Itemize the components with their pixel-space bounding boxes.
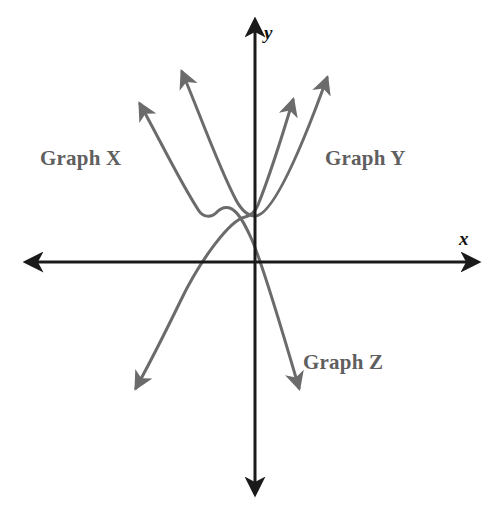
curve-label-graph-y: Graph Y <box>325 146 406 171</box>
coordinate-plane-figure: Graph X Graph Y Graph Z x y <box>0 0 502 520</box>
axes-group <box>26 20 478 494</box>
curve-label-graph-x: Graph X <box>40 146 121 171</box>
curves-group <box>136 72 327 388</box>
graph-canvas <box>0 0 502 520</box>
y-axis-label: y <box>264 22 272 44</box>
curve-graph-x <box>140 104 299 388</box>
curve-label-graph-z: Graph Z <box>303 350 383 375</box>
x-axis-label: x <box>459 228 469 250</box>
